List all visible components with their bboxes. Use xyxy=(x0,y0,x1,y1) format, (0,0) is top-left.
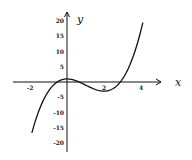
chart: -2242015105-5-10-15-20 x y xyxy=(0,0,192,160)
y-axis-label: y xyxy=(76,13,84,26)
y-tick-label: 15 xyxy=(56,32,64,39)
y-tick-label: -5 xyxy=(57,93,64,100)
y-tick-label: -20 xyxy=(53,139,64,146)
x-tick-label: -2 xyxy=(27,84,34,91)
y-tick-label: -10 xyxy=(53,109,64,116)
axes xyxy=(13,12,161,152)
y-tick-label: -15 xyxy=(53,124,64,131)
x-tick-label: 2 xyxy=(102,84,106,91)
x-axis-label: x xyxy=(175,76,182,89)
x-tick-label: 4 xyxy=(139,84,143,91)
y-tick-label: 5 xyxy=(60,63,64,70)
function-curve xyxy=(32,23,143,133)
y-tick-label: 20 xyxy=(56,17,64,24)
y-tick-label: 10 xyxy=(56,48,64,55)
